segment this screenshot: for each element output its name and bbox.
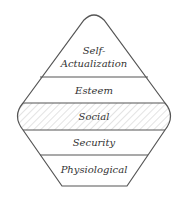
level-self-actualization-line1: Self-: [83, 45, 106, 56]
diagram-outline: [18, 15, 171, 186]
level-self-actualization-line2: Actualization: [60, 58, 128, 69]
level-esteem: Esteem: [74, 85, 113, 96]
level-security: Security: [73, 137, 116, 148]
needs-hierarchy-diagram: Self- Actualization Esteem Social Securi…: [0, 0, 187, 203]
level-social: Social: [79, 111, 110, 122]
level-physiological: Physiological: [60, 164, 128, 175]
